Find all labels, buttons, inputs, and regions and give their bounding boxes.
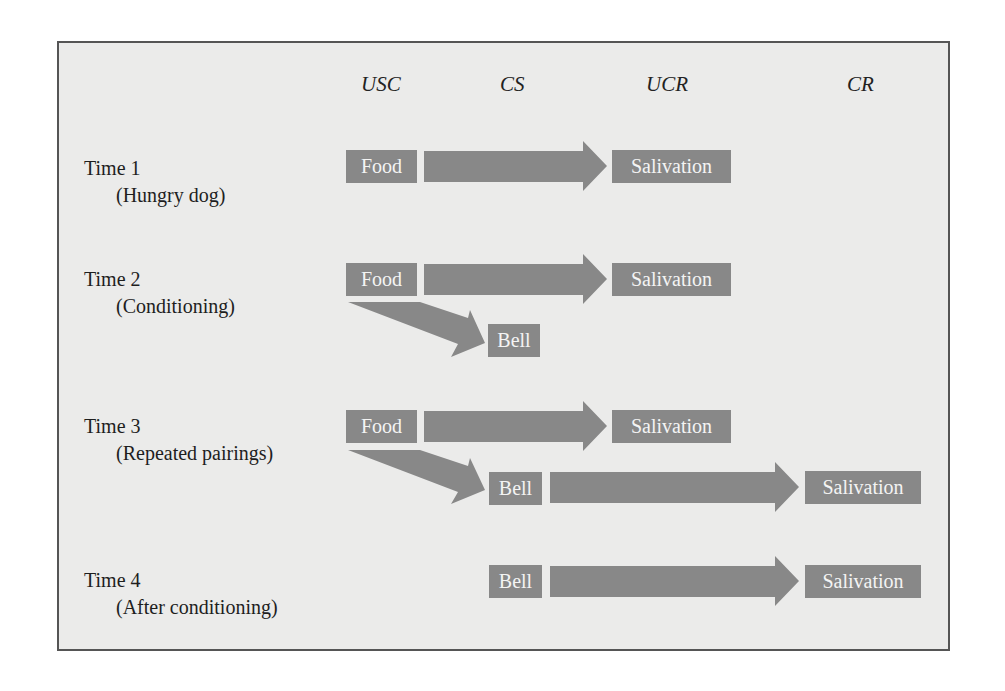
salivation-box-time3: Salivation <box>612 410 731 443</box>
arrow-diagonal-icon <box>348 450 485 504</box>
arrow-right-icon <box>550 556 799 606</box>
food-box-time3: Food <box>346 410 417 443</box>
bell-box-time4: Bell <box>489 565 542 598</box>
salivation-box-time1: Salivation <box>612 150 731 183</box>
arrow-diagonal-icon <box>348 302 485 357</box>
arrow-right-icon <box>550 462 799 512</box>
arrow-right-icon <box>424 254 607 304</box>
arrow-right-icon <box>424 141 607 191</box>
food-box-time2: Food <box>346 263 417 296</box>
arrow-right-icon <box>424 401 607 451</box>
bell-box-time2: Bell <box>488 324 540 357</box>
cr-salivation-box-time4: Salivation <box>805 565 921 598</box>
bell-box-time3: Bell <box>489 472 542 505</box>
salivation-box-time2: Salivation <box>612 263 731 296</box>
cr-salivation-box-time3: Salivation <box>805 471 921 504</box>
food-box-time1: Food <box>346 150 417 183</box>
